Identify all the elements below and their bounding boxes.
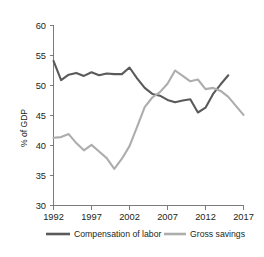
series-line-compensation-of-labor xyxy=(54,61,229,113)
series-line-gross-savings xyxy=(54,71,244,169)
x-tick-label-1997: 1997 xyxy=(81,212,102,222)
y-tick-label-55: 55 xyxy=(36,51,46,61)
x-axis-labels: 1992 1997 2002 2007 2012 2017 xyxy=(43,212,254,222)
y-tick-label-30: 30 xyxy=(36,201,46,211)
y-tick-label-50: 50 xyxy=(36,81,46,91)
chart-legend: Compensation of labor Gross savings xyxy=(46,229,246,239)
x-tick-label-2007: 2007 xyxy=(157,212,178,222)
y-tick-label-60: 60 xyxy=(36,21,46,31)
x-axis-ticks xyxy=(54,206,244,210)
x-tick-label-2002: 2002 xyxy=(119,212,140,222)
y-axis-labels: 30 35 40 45 50 55 60 xyxy=(36,21,46,211)
x-tick-label-2012: 2012 xyxy=(195,212,216,222)
y-tick-label-45: 45 xyxy=(36,111,46,121)
y-axis-ticks xyxy=(50,26,54,206)
y-axis-title: % of GDP xyxy=(19,109,29,147)
chart-container: % of GDP 30 35 40 45 50 55 60 xyxy=(0,0,264,257)
line-chart: % of GDP 30 35 40 45 50 55 60 xyxy=(0,0,264,257)
series-group xyxy=(54,61,244,169)
legend-label-compensation-of-labor: Compensation of labor xyxy=(74,229,162,239)
x-tick-label-2017: 2017 xyxy=(233,212,254,222)
legend-label-gross-savings: Gross savings xyxy=(190,229,246,239)
x-tick-label-1992: 1992 xyxy=(43,212,64,222)
y-tick-label-35: 35 xyxy=(36,171,46,181)
y-tick-label-40: 40 xyxy=(36,141,46,151)
